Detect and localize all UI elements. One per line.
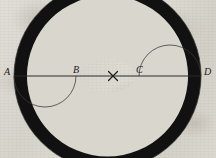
black-ink-band	[14, 0, 201, 158]
figure-canvas: A B C D	[0, 0, 216, 158]
point-label-A: A	[4, 67, 10, 77]
point-label-D: D	[204, 67, 211, 77]
geometric-figure	[0, 0, 216, 158]
point-label-B: B	[73, 65, 79, 75]
point-label-C: C	[136, 65, 143, 75]
